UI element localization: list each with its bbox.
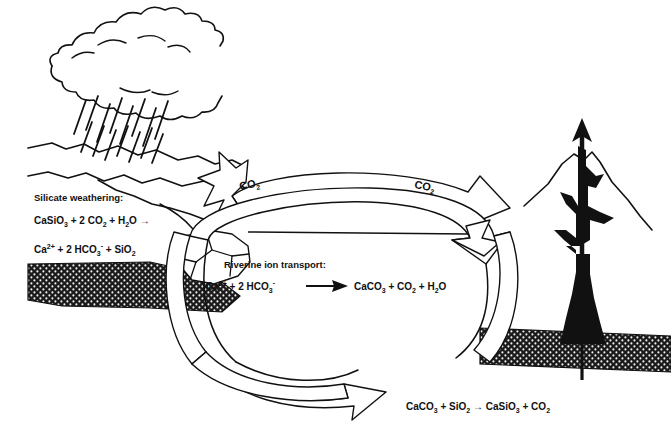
silicate-weathering-heading: Silicate weathering: [34,192,123,203]
eq-token: + SiO [103,244,132,255]
silicate-equation-line-1: CaSiO3 + 2 CO2 + H2O → [34,215,150,228]
eq-token: + SiO [438,401,467,412]
eq-token: → CaSiO [470,401,516,412]
eq-token: Ca [34,244,47,255]
eq-token: CaSiO [34,215,64,226]
riverine-equation-left: Ca2+ + 2 HCO3- [206,279,276,294]
eq-sub: 2 [546,407,550,414]
riverine-heading: Riverine ion transport: [224,259,326,270]
rain-streaks-icon [74,96,168,163]
eq-sup: 2+ [47,243,55,250]
diagram-canvas: Silicate weathering: CaSiO3 + 2 CO2 + H2… [0,0,671,438]
eq-token: + 2 HCO [227,281,269,292]
rain-cloud-icon [50,7,223,119]
reaction-arrow-icon [306,280,348,292]
eq-token: + CO [520,401,547,412]
eq-sub: 2 [132,250,136,257]
eq-token: Ca [206,281,219,292]
eq-sub: 3 [269,287,273,294]
eq-sub: 3 [97,250,101,257]
sea-level-line [248,232,468,234]
eq-sup: - [273,279,276,286]
carbonate-silicate-cycle-diagram: Silicate weathering: CaSiO3 + 2 CO2 + H2… [0,0,671,438]
eq-token: + H [416,281,435,292]
eq-token: CaCO [354,281,382,292]
eq-token: O [439,281,447,292]
eq-token: + 2 HCO [55,244,97,255]
silicate-equation-line-2: Ca2+ + 2 HCO3- + SiO2 [34,242,136,257]
eq-token: + H [107,215,126,226]
eq-token: + CO [386,281,413,292]
eq-token: + 2 CO [68,215,103,226]
silicate-weathering-label: Silicate weathering: CaSiO3 + 2 CO2 + H2… [34,192,150,257]
riverine-transport-label: Riverine ion transport: Ca2+ + 2 HCO3- C… [206,259,447,294]
eq-token: O → [129,215,150,226]
eq-token: CaCO [406,401,434,412]
eq-sup: 2+ [219,280,227,287]
metamorphism-equation: CaCO3 + SiO2 → CaSiO3 + CO2 [406,401,550,414]
riverine-equation-right: CaCO3 + CO2 + H2O [354,281,447,294]
